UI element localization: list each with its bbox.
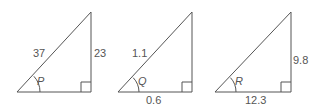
hypotenuse-label-p: 37	[33, 47, 45, 59]
adjacent-label-q: 0.6	[146, 94, 161, 106]
angle-label-r: R	[235, 75, 243, 87]
right-angle-marker-q	[182, 82, 192, 92]
hypotenuse-label-q: 1.1	[132, 47, 147, 59]
triangle-p-outline	[17, 12, 91, 92]
angle-label-q: Q	[138, 75, 147, 87]
triangle-r-outline	[215, 12, 291, 92]
angle-label-p: P	[37, 75, 45, 87]
triangle-q-outline	[118, 12, 192, 92]
triangle-r: R 9.8 12.3	[215, 12, 308, 106]
right-angle-marker-r	[281, 82, 291, 92]
adjacent-label-r: 12.3	[245, 94, 266, 106]
right-angle-marker-p	[81, 82, 91, 92]
triangle-p: P 37 23	[17, 12, 106, 92]
triangle-q: Q 1.1 0.6	[118, 12, 192, 106]
opposite-label-p: 23	[94, 47, 106, 59]
opposite-label-r: 9.8	[293, 54, 308, 66]
triangles-diagram: P 37 23 Q 1.1 0.6 R 9.8 12.3	[0, 0, 324, 111]
